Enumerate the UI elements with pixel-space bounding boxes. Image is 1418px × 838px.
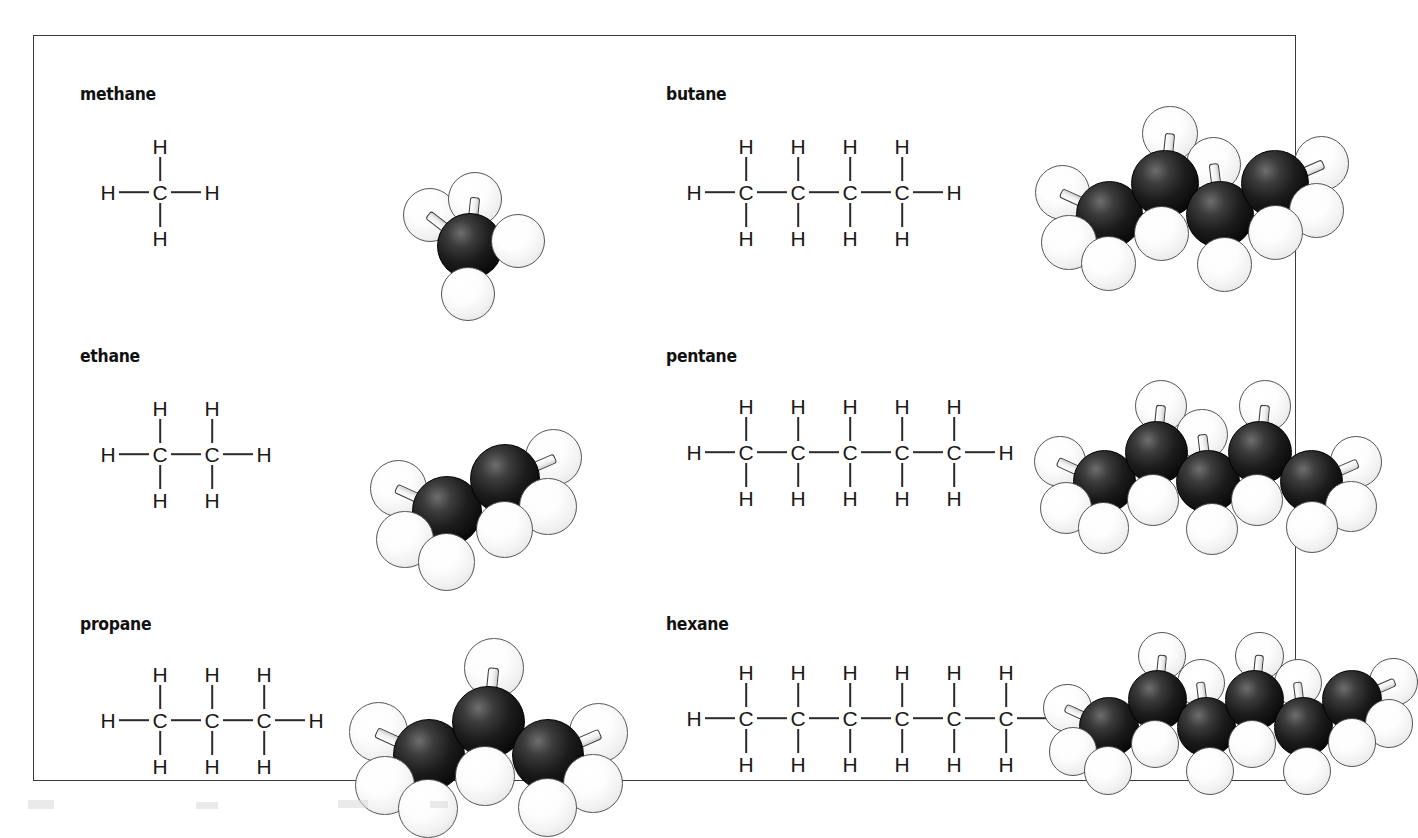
- carbon-atom: C: [204, 444, 219, 465]
- bond-c-h-top: [745, 157, 747, 181]
- bond-c-h-bottom: [745, 463, 747, 487]
- hydrogen-sphere: [1078, 502, 1130, 554]
- hydrogen-atom-top: H: [790, 662, 805, 683]
- diagram-frame: methaneHHCHHethaneHHCHHCHHpropaneHHCHHCH…: [33, 35, 1296, 781]
- hydrogen-sphere: [1127, 474, 1179, 526]
- bond-c-h-top: [745, 417, 747, 441]
- hydrogen-atom-bottom: H: [738, 228, 753, 249]
- bond-c-h-top: [953, 417, 955, 441]
- structural-formula: HHCHHCHHCHHCHHCHH: [694, 406, 1023, 515]
- hydrogen-sphere: [1286, 501, 1338, 553]
- molecule-name-label: propane: [80, 614, 151, 634]
- bond-c-h-right: [913, 191, 943, 193]
- bond-c-h-bottom: [159, 731, 161, 755]
- bond-c-c: [913, 451, 943, 453]
- molecule-panel-butane: butaneHHCHHCHHCHHCHH: [666, 84, 732, 104]
- carbon-atom: C: [738, 182, 753, 203]
- hydrogen-atom-bottom: H: [256, 756, 271, 777]
- bond-c-c: [809, 451, 839, 453]
- bond-c-h-top: [849, 157, 851, 181]
- hydrogen-atom-top: H: [842, 662, 857, 683]
- carbon-atom: C: [998, 708, 1013, 729]
- bond-c-h-top: [797, 417, 799, 441]
- carbon-atom: C: [152, 444, 167, 465]
- hydrogen-sphere: [441, 267, 495, 321]
- hydrogen-atom-bottom: H: [790, 228, 805, 249]
- hydrogen-atom-top: H: [204, 398, 219, 419]
- bond-c-h-left: [705, 717, 735, 719]
- hydrogen-sphere: [1084, 746, 1133, 795]
- hydrogen-atom-bottom: H: [738, 488, 753, 509]
- bond-c-h-bottom: [745, 203, 747, 227]
- bond-c-h-top: [849, 417, 851, 441]
- hydrogen-atom-left: H: [100, 710, 115, 731]
- bond-c-h-bottom: [901, 203, 903, 227]
- bond-c-h-top: [263, 685, 265, 709]
- hydrogen-atom-bottom: H: [894, 228, 909, 249]
- hydrogen-sphere: [398, 779, 457, 838]
- bond-c-h-bottom: [745, 729, 747, 753]
- bond-c-h-right: [171, 191, 201, 193]
- bond-c-h-right: [965, 451, 995, 453]
- hydrogen-atom-top: H: [894, 662, 909, 683]
- hydrogen-atom-top: H: [152, 136, 167, 157]
- hydrogen-sphere: [1131, 720, 1180, 769]
- molecule-name-label: pentane: [666, 346, 737, 366]
- carbon-atom: C: [204, 710, 219, 731]
- hydrogen-atom-bottom: H: [946, 488, 961, 509]
- bond-c-h-bottom: [849, 729, 851, 753]
- bond-c-c: [757, 451, 787, 453]
- scan-artifact: [338, 800, 368, 808]
- hydrogen-atom-top: H: [790, 396, 805, 417]
- hydrogen-atom-left: H: [686, 182, 701, 203]
- ball-and-stick-model: [1028, 628, 1418, 795]
- carbon-atom: C: [256, 710, 271, 731]
- bond-c-h-bottom: [849, 463, 851, 487]
- hydrogen-atom-right: H: [998, 442, 1013, 463]
- hydrogen-atom-top: H: [256, 664, 271, 685]
- hydrogen-atom-bottom: H: [790, 754, 805, 775]
- bond-c-h-top: [211, 419, 213, 443]
- bond-c-h-bottom: [797, 203, 799, 227]
- bond-c-h-top: [159, 157, 161, 181]
- hydrogen-atom-bottom: H: [204, 756, 219, 777]
- bond-c-h-bottom: [211, 465, 213, 489]
- structural-formula: HHCHH: [108, 146, 229, 255]
- hydrogen-atom-left: H: [686, 442, 701, 463]
- hydrogen-atom-top: H: [998, 662, 1013, 683]
- hydrogen-atom-bottom: H: [894, 754, 909, 775]
- hydrogen-atom-top: H: [152, 398, 167, 419]
- bond-c-h-top: [953, 683, 955, 707]
- bond-c-c: [809, 717, 839, 719]
- bond-c-h-left: [705, 451, 735, 453]
- hydrogen-sphere: [518, 778, 577, 837]
- hydrogen-atom-top: H: [790, 136, 805, 157]
- hydrogen-atom-top: H: [738, 396, 753, 417]
- bond-c-c: [223, 719, 253, 721]
- hydrogen-sphere: [1186, 503, 1238, 555]
- ball-and-stick-model: [380, 136, 545, 321]
- bond-c-h-bottom: [797, 729, 799, 753]
- bond-c-c: [965, 717, 995, 719]
- ball-and-stick-model: [352, 394, 582, 591]
- bond-c-h-top: [1005, 683, 1007, 707]
- molecule-panel-propane: propaneHHCHHCHHCHH: [80, 614, 157, 634]
- hydrogen-atom-top: H: [946, 662, 961, 683]
- ball-and-stick-model: [330, 634, 628, 838]
- hydrogen-atom-top: H: [894, 136, 909, 157]
- carbon-atom: C: [738, 442, 753, 463]
- bond-c-h-bottom: [901, 729, 903, 753]
- scan-artifact: [196, 802, 218, 809]
- bond-c-h-left: [119, 719, 149, 721]
- carbon-atom: C: [894, 182, 909, 203]
- carbon-atom: C: [790, 442, 805, 463]
- bond-c-c: [757, 191, 787, 193]
- carbon-atom: C: [152, 182, 167, 203]
- hydrogen-atom-top: H: [738, 136, 753, 157]
- bond-c-h-top: [849, 683, 851, 707]
- bond-c-h-bottom: [797, 463, 799, 487]
- molecule-name-label: hexane: [666, 614, 728, 634]
- bond-c-h-top: [901, 157, 903, 181]
- scan-artifact: [430, 801, 448, 808]
- ball-and-stick-model: [1018, 376, 1382, 555]
